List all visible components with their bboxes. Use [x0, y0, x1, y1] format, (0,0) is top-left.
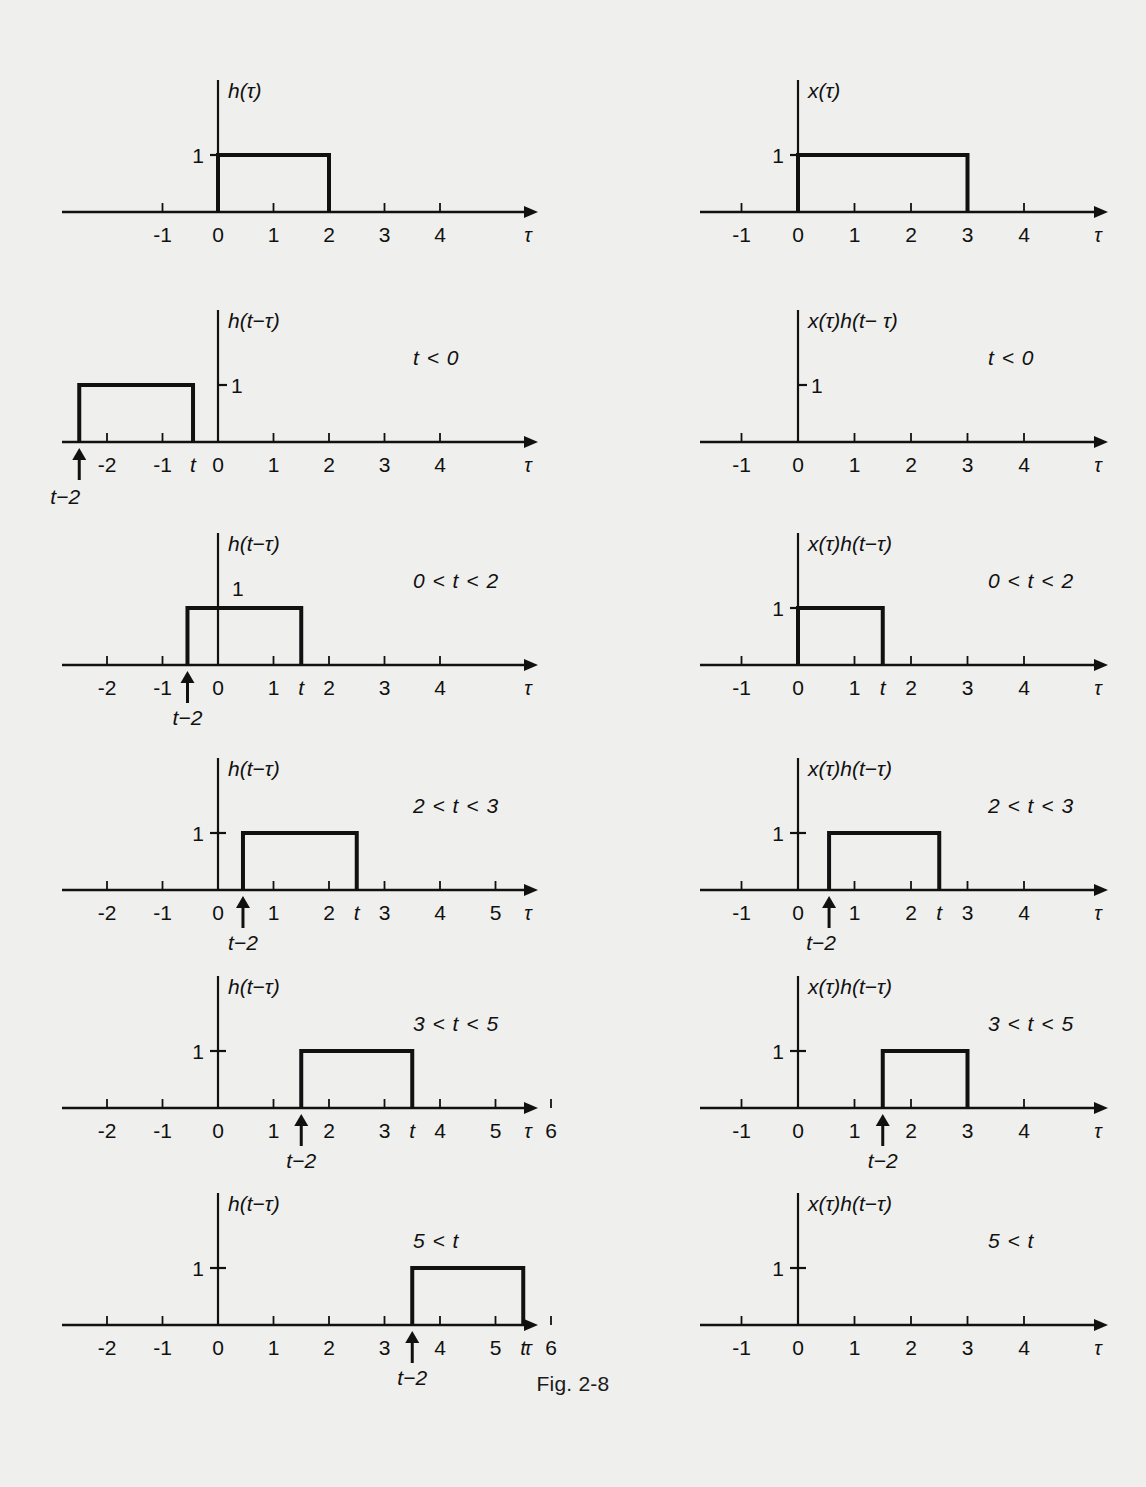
pulse-waveform [412, 1268, 523, 1325]
x-tick-label: 4 [1018, 223, 1030, 246]
x-tick-label: 2 [323, 676, 335, 699]
x-axis-arrowhead [524, 206, 538, 218]
x-tick-label-t: t [298, 676, 305, 699]
plot-panel-p2-right: τx(τ)h(t− τ)t < 01-101234 [700, 309, 1108, 476]
x-tick-label: 1 [849, 676, 861, 699]
x-tick-label: -1 [153, 1336, 172, 1359]
x-tick-label: 2 [323, 1336, 335, 1359]
x-tick-label: 6 [545, 1119, 557, 1142]
x-tick-label: 2 [905, 676, 917, 699]
x-tick-label-t: t [190, 453, 197, 476]
x-tick-label: 2 [323, 901, 335, 924]
y-tick-label: 1 [192, 1040, 204, 1063]
x-axis-label: τ [524, 224, 533, 246]
plot-panel-p5-left: τh(t−τ)3 < t < 51-2-10123456tt−2 [62, 975, 557, 1172]
x-tick-label: -2 [98, 901, 117, 924]
pulse-waveform [243, 833, 357, 890]
pulse-waveform [79, 385, 193, 442]
x-tick-label: 0 [792, 453, 804, 476]
x-tick-label: 4 [1018, 676, 1030, 699]
signal-label: x(τ)h(t− τ) [807, 309, 898, 332]
arrow-marker: t−2 [50, 448, 86, 508]
x-axis-arrowhead [1094, 1102, 1108, 1114]
condition-label: 5 < t [413, 1229, 460, 1252]
arrow-marker-head [236, 896, 250, 908]
x-tick-label: 0 [212, 453, 224, 476]
x-tick-label: 0 [792, 901, 804, 924]
arrow-marker-head [876, 1114, 890, 1126]
condition-label: 2 < t < 3 [987, 794, 1074, 817]
x-tick-label: 2 [323, 223, 335, 246]
plot-panel-p5-right: τx(τ)h(t−τ)3 < t < 51-101234t−2 [700, 975, 1108, 1172]
arrow-marker-head [294, 1114, 308, 1126]
x-tick-label: 3 [962, 676, 974, 699]
x-tick-label: 4 [434, 223, 446, 246]
x-tick-label: 2 [905, 901, 917, 924]
x-tick-label: 2 [905, 1336, 917, 1359]
x-tick-label: 0 [212, 1119, 224, 1142]
y-tick-label: 1 [772, 1257, 784, 1280]
y-tick-label: 1 [192, 822, 204, 845]
pulse-waveform [301, 1051, 412, 1108]
x-tick-label: 3 [379, 1336, 391, 1359]
x-tick-label: 4 [434, 676, 446, 699]
x-tick-label: 0 [212, 1336, 224, 1359]
x-tick-label-t: t [880, 676, 887, 699]
x-tick-label: -1 [732, 1119, 751, 1142]
x-tick-label: 5 [490, 1119, 502, 1142]
pulse-waveform [883, 1051, 968, 1108]
y-tick-label: 1 [232, 577, 244, 600]
condition-label: 2 < t < 3 [412, 794, 499, 817]
x-tick-label: 5 [490, 901, 502, 924]
condition-label: t < 0 [413, 346, 459, 369]
x-tick-label: -1 [732, 223, 751, 246]
x-tick-label: 5 [490, 1336, 502, 1359]
x-axis-arrowhead [524, 659, 538, 671]
y-tick-label: 1 [231, 374, 243, 397]
pulse-waveform [798, 608, 883, 665]
arrow-marker: t−2 [868, 1114, 898, 1172]
x-tick-label: -1 [153, 453, 172, 476]
signal-label: h(t−τ) [228, 975, 280, 998]
arrow-marker-label: t−2 [286, 1149, 316, 1172]
signal-label: x(τ) [807, 79, 840, 102]
arrow-marker: t−2 [806, 896, 836, 954]
x-tick-label: 1 [849, 223, 861, 246]
y-tick-label: 1 [772, 1040, 784, 1063]
condition-label: 5 < t [988, 1229, 1035, 1252]
x-axis-arrowhead [1094, 884, 1108, 896]
plot-panel-p3-left: τh(t−τ)0 < t < 21-2-101234tt−2 [62, 532, 538, 729]
x-axis-arrowhead [524, 1319, 538, 1331]
arrow-marker-label: t−2 [50, 485, 80, 508]
x-tick-label: -2 [98, 676, 117, 699]
x-tick-label: 0 [792, 1336, 804, 1359]
condition-label: 3 < t < 5 [413, 1012, 499, 1035]
x-axis-label: τ [1094, 454, 1103, 476]
x-axis-arrowhead [1094, 206, 1108, 218]
pulse-waveform [187, 608, 301, 665]
signal-label: x(τ)h(t−τ) [807, 532, 892, 555]
x-tick-label: 4 [1018, 1119, 1030, 1142]
x-tick-label: 3 [379, 223, 391, 246]
y-tick-label: 1 [192, 144, 204, 167]
x-tick-label: -1 [732, 1336, 751, 1359]
x-axis-arrowhead [524, 436, 538, 448]
x-axis-label: τ [524, 454, 533, 476]
x-axis-label: τ [524, 677, 533, 699]
y-tick-label: 1 [772, 597, 784, 620]
x-axis-arrowhead [524, 884, 538, 896]
x-axis-label: τ [1094, 902, 1103, 924]
x-tick-label-t: t [354, 901, 361, 924]
x-tick-label: 4 [434, 1336, 446, 1359]
signal-label: x(τ)h(t−τ) [807, 757, 892, 780]
signal-label: h(τ) [228, 79, 262, 102]
plot-panel-p4-right: τx(τ)h(t−τ)2 < t < 31-101234tt−2 [700, 757, 1108, 954]
x-tick-label: 0 [792, 676, 804, 699]
signal-label: h(t−τ) [228, 309, 280, 332]
plot-panel-p6-left: τh(t−τ)5 < t1-2-10123456tt−2 [62, 1192, 557, 1389]
arrow-marker-head [180, 671, 194, 683]
x-tick-label: -1 [732, 901, 751, 924]
y-tick-label: 1 [811, 374, 823, 397]
x-tick-label-t: t [409, 1119, 416, 1142]
plot-panel-p3-right: τx(τ)h(t−τ)0 < t < 21-101234t [700, 532, 1108, 699]
